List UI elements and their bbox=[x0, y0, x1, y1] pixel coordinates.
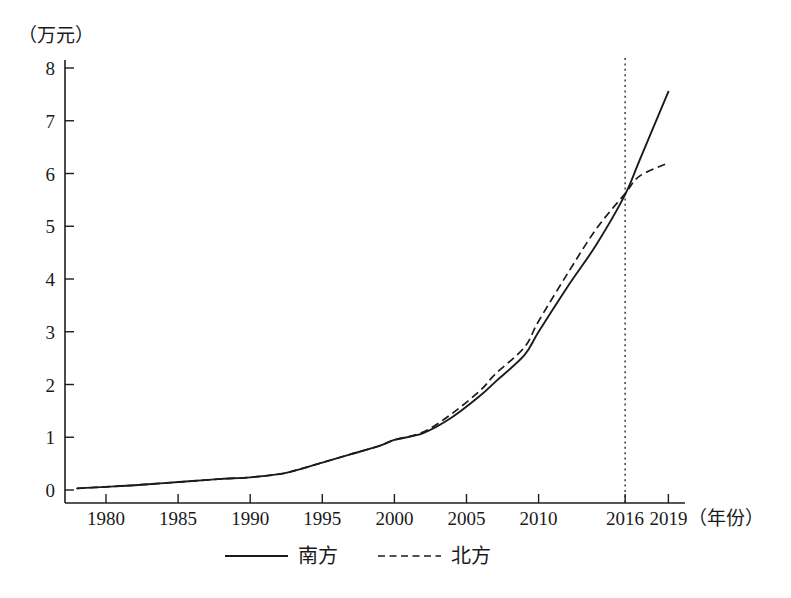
x-tick-label: 1990 bbox=[231, 508, 269, 529]
y-tick-label: 6 bbox=[46, 164, 56, 185]
y-tick-label: 2 bbox=[46, 375, 56, 396]
x-tick-label: 2019 bbox=[649, 508, 687, 529]
y-tick-label: 4 bbox=[46, 269, 56, 290]
x-tick-label: 2010 bbox=[520, 508, 558, 529]
legend-label-north: 北方 bbox=[451, 545, 491, 567]
x-tick-label: 1980 bbox=[87, 508, 125, 529]
legend-label-south: 南方 bbox=[298, 545, 338, 567]
x-tick-label: 2016 bbox=[606, 508, 644, 529]
chart-canvas: （万元） 012345678 1980198519901995200020052… bbox=[0, 0, 791, 598]
axis-lines bbox=[65, 60, 685, 503]
y-tick-label: 8 bbox=[46, 58, 56, 79]
x-tick-label: 1985 bbox=[159, 508, 197, 529]
y-axis-unit-label: （万元） bbox=[18, 25, 94, 46]
y-tick-label: 0 bbox=[46, 480, 56, 501]
y-axis-unit-label-group: （万元） bbox=[18, 25, 94, 46]
series-line-north bbox=[77, 163, 668, 488]
y-tick-label: 3 bbox=[46, 322, 56, 343]
x-axis-unit-label-group: （年份） bbox=[688, 508, 764, 529]
x-axis-ticks: 198019851990199520002005201020162019 bbox=[87, 494, 687, 529]
y-tick-label: 5 bbox=[46, 216, 56, 237]
x-axis-unit-label: （年份） bbox=[688, 508, 764, 529]
x-tick-label: 2000 bbox=[375, 508, 413, 529]
line-chart: （万元） 012345678 1980198519901995200020052… bbox=[0, 0, 791, 598]
chart-legend: 南方 北方 bbox=[225, 545, 491, 567]
y-tick-label: 1 bbox=[46, 427, 56, 448]
y-tick-label: 7 bbox=[46, 111, 56, 132]
series-line-south bbox=[77, 92, 668, 489]
series-layer bbox=[77, 92, 668, 489]
y-axis-ticks: 012345678 bbox=[46, 58, 75, 501]
x-tick-label: 1995 bbox=[303, 508, 341, 529]
x-tick-label: 2005 bbox=[448, 508, 486, 529]
